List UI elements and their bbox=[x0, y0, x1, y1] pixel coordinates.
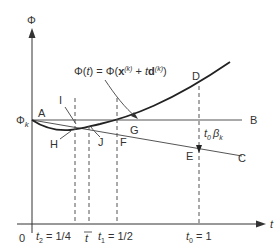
point-a-label: A bbox=[38, 107, 46, 119]
tick-label-t2: t2 = 1/4 bbox=[36, 230, 71, 244]
step-annotation: t0βk bbox=[204, 127, 223, 141]
x-axis-arrow-icon bbox=[256, 221, 266, 228]
tick-label-t0: t0 = 1 bbox=[186, 230, 212, 244]
y-axis-label: Φ bbox=[27, 14, 36, 26]
line-search-diagram: Φ t 0 Φk t0βk Φ(t) = Φ(x(k) + td(k)) A B… bbox=[0, 0, 280, 252]
point-d-label: D bbox=[192, 70, 200, 82]
point-c-label: C bbox=[238, 152, 246, 164]
point-h-label: H bbox=[50, 138, 58, 150]
tick-label-tbar: t bbox=[85, 232, 89, 244]
point-b-label: B bbox=[250, 114, 257, 126]
leader-j bbox=[91, 127, 100, 137]
leader-i bbox=[65, 107, 76, 124]
x-axis-label: t bbox=[270, 218, 274, 230]
point-j-label: J bbox=[98, 136, 104, 148]
curve-formula-label: Φ(t) = Φ(x(k) + td(k)) bbox=[74, 65, 167, 77]
leader-h bbox=[60, 131, 71, 139]
y-axis-arrow-icon bbox=[29, 28, 36, 38]
tick-label-t1: t1 = 1/2 bbox=[98, 230, 133, 244]
origin-label: 0 bbox=[19, 232, 25, 244]
point-i-label: I bbox=[59, 94, 62, 106]
point-g-label: G bbox=[130, 124, 139, 136]
point-f-label: F bbox=[120, 136, 127, 148]
point-e-label: E bbox=[186, 150, 193, 162]
curve-label-pointer bbox=[105, 80, 136, 117]
phi-k-label: Φk bbox=[16, 114, 30, 129]
